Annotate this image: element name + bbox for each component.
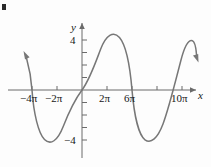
x-tick-label-neg4pi: −4π (20, 93, 37, 104)
x-tick-label-6pi: 6π (124, 93, 135, 104)
x-axis-ticks (32, 86, 182, 90)
figure-canvas: y x −4π −2π 2π 6π 10π 4 −4 (0, 0, 211, 167)
y-axis-arrowhead (79, 23, 85, 29)
y-tick-label-4: 4 (70, 35, 76, 46)
axes-group (8, 23, 196, 158)
curve-group (24, 34, 199, 142)
y-tick-label-neg4: −4 (64, 135, 76, 146)
x-tick-label-2pi: 2π (99, 93, 110, 104)
x-tick-label-neg2pi: −2π (45, 93, 62, 104)
y-axis-label: y (71, 22, 76, 33)
x-tick-label-10pi: 10π (171, 93, 188, 104)
sine-curve (27, 34, 197, 142)
x-axis-arrowhead (190, 87, 196, 93)
curve-start-arrowhead (24, 51, 30, 59)
sine-curve-plot (0, 0, 211, 167)
x-axis-label: x (198, 90, 203, 101)
curve-end-arrowhead (193, 54, 199, 63)
